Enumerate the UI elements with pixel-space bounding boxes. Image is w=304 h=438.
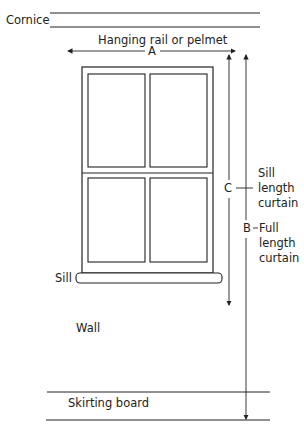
- sill-length-label-line2: length: [258, 182, 295, 195]
- window-pane-bottom-left: [88, 178, 145, 262]
- skirting-board-label: Skirting board: [68, 397, 149, 410]
- dimension-a-label: A: [148, 45, 156, 58]
- window-pane-top-left: [88, 74, 145, 167]
- sill-length-label-line3: curtain: [258, 197, 298, 210]
- cornice-label: Cornice: [6, 14, 49, 27]
- curtain-measurement-diagram: Cornice Hanging rail or pelmet A C Sill …: [0, 0, 304, 438]
- full-length-label-line2: length: [259, 237, 296, 250]
- wall-label: Wall: [76, 322, 100, 335]
- sill-length-label-line1: Sill: [258, 167, 275, 180]
- dimension-b-label: B: [243, 222, 251, 235]
- dimension-c-label: C: [224, 182, 232, 195]
- window-frame: [82, 67, 213, 273]
- window-sill: [76, 273, 222, 283]
- diagram-drawing: [0, 0, 304, 438]
- full-length-label-line3: curtain: [259, 252, 299, 265]
- full-length-label-line1: Full: [259, 222, 279, 235]
- window-pane-top-right: [150, 74, 207, 167]
- sill-label: Sill: [55, 272, 72, 285]
- window-pane-bottom-right: [150, 178, 207, 262]
- hanging-rail-label: Hanging rail or pelmet: [98, 34, 227, 47]
